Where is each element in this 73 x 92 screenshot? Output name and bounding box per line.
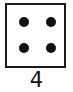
- pip-bottom-left-icon: [19, 43, 29, 53]
- pip-bottom-right-icon: [46, 43, 56, 53]
- die-figure: 4: [0, 0, 73, 92]
- pip-grid: [7, 5, 64, 66]
- pip-top-left-icon: [19, 17, 29, 27]
- pip-top-right-icon: [46, 17, 56, 27]
- die-count-label: 4: [0, 69, 73, 92]
- die-face-square: [5, 3, 66, 68]
